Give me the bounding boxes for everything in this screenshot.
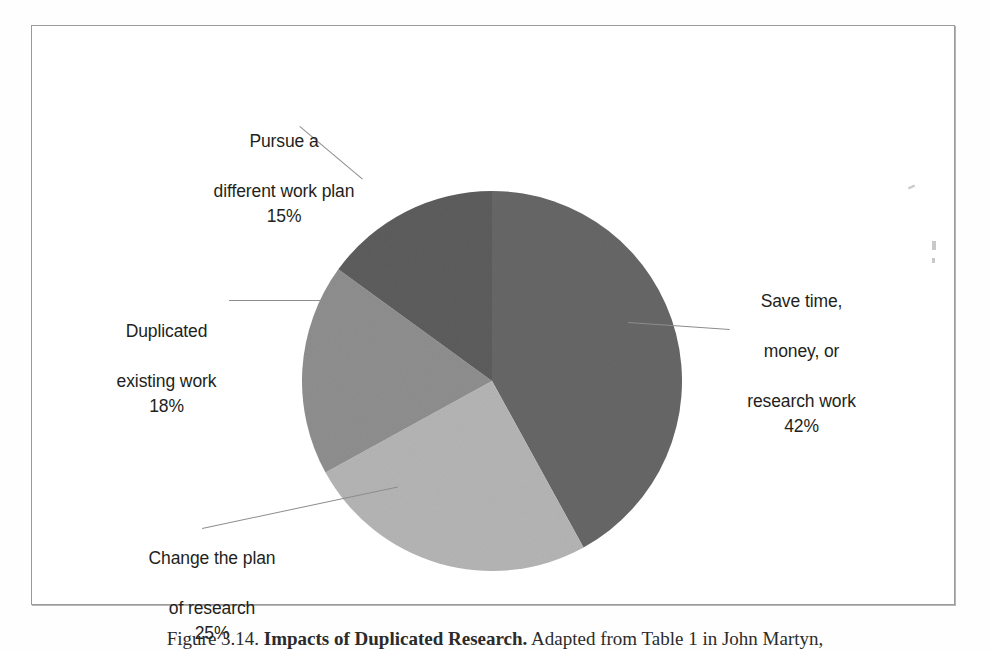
scanned-page: Pursue a different work plan 15% Duplica… [0, 0, 990, 651]
scan-speck [932, 241, 936, 250]
pie-label-pursue-percent: 15% [169, 204, 399, 229]
pie-label-pursue-line2: different work plan [214, 181, 355, 201]
pie-label-save-percent: 42% [694, 414, 909, 439]
figure-caption-title: Impacts of Duplicated Research. [264, 628, 528, 649]
pie-label-duplicated: Duplicated existing work 18% [54, 294, 279, 444]
figure-caption: Figure 3.14. Impacts of Duplicated Resea… [0, 628, 990, 650]
pie-label-duplicated-line2: existing work [117, 371, 217, 391]
pie-label-pursue: Pursue a different work plan 15% [169, 104, 399, 254]
pie-label-change-line1: Change the plan [149, 548, 276, 568]
pie-label-save-line3: research work [747, 391, 856, 411]
pie-label-change-line2: of research [169, 598, 255, 618]
pie-label-pursue-line1: Pursue a [249, 131, 318, 151]
pie-label-duplicated-percent: 18% [54, 394, 279, 419]
pie-label-save-line2: money, or [764, 341, 840, 361]
figure-caption-suffix: Adapted from Table 1 in John Martyn, [527, 628, 823, 649]
pie-label-duplicated-line1: Duplicated [126, 321, 208, 341]
pie-label-save-line1: Save time, [761, 291, 843, 311]
scan-speck [908, 185, 915, 190]
scan-speck [932, 258, 935, 263]
figure-caption-prefix: Figure 3.14. [167, 628, 264, 649]
pie-label-save: Save time, money, or research work 42% [694, 264, 909, 464]
figure-frame: Pursue a different work plan 15% Duplica… [31, 25, 955, 605]
